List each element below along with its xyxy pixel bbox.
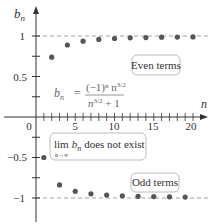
data-point (65, 42, 70, 47)
formula: bn = (−1)ⁿ n3/2 n3/2 + 1 (54, 81, 126, 109)
data-point (81, 39, 86, 44)
limit-under: n→∞ (55, 152, 68, 158)
y-tick-label-0.5: 0.5 (13, 71, 27, 83)
data-point (175, 34, 180, 39)
svg-text:bn: bn (54, 86, 64, 102)
data-point (128, 35, 133, 40)
data-point (104, 192, 109, 197)
data-point (135, 194, 140, 199)
data-point (143, 35, 148, 40)
x-axis-label: n (201, 97, 207, 111)
data-point (190, 34, 195, 39)
data-point (112, 36, 117, 41)
data-point (159, 35, 164, 40)
data-point (57, 182, 62, 187)
svg-text:n3/2 + 1: n3/2 + 1 (88, 97, 120, 109)
data-point (49, 55, 54, 60)
x-tick-label-0: 0 (26, 120, 32, 132)
y-axis-arrow-icon (33, 6, 39, 14)
odd-terms-label: Odd terms (132, 176, 178, 188)
y-tick-label-minus-0.5: −0.5 (7, 151, 27, 163)
x-tick-label-5: 5 (72, 120, 78, 132)
x-tick-label-20: 20 (186, 120, 198, 132)
data-point (183, 194, 188, 199)
svg-text:(−1)ⁿ n3/2: (−1)ⁿ n3/2 (86, 81, 126, 94)
y-tick-label-1: 1 (20, 30, 26, 42)
sequence-chart: bn n 1 0.5 −0.5 −1 0 5 10 15 20 bn = (−1… (0, 0, 214, 224)
x-axis-arrow-icon (200, 114, 208, 120)
data-point (96, 37, 101, 42)
y-tick-label-minus-1: −1 (13, 192, 25, 204)
data-point (73, 189, 78, 194)
data-point (151, 194, 156, 199)
data-point (120, 193, 125, 198)
data-point (41, 155, 46, 160)
x-tick-label-10: 10 (109, 120, 121, 132)
data-point (167, 194, 172, 199)
svg-text:=: = (74, 86, 81, 100)
y-axis-label: bn (14, 6, 26, 23)
x-tick-label-15: 15 (148, 120, 160, 132)
data-point (88, 191, 93, 196)
even-terms-label: Even terms (131, 59, 181, 71)
